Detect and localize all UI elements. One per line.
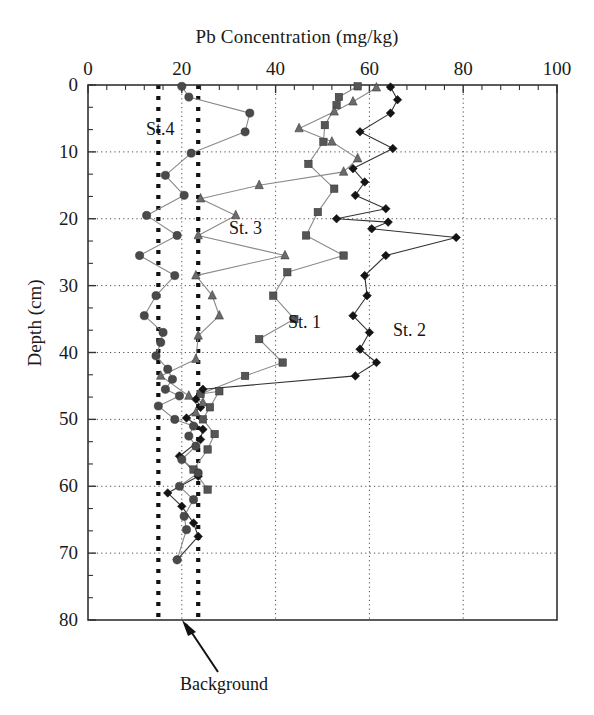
data-point-circle [164,365,172,373]
data-point-square [211,430,218,437]
data-point-square [314,208,321,215]
y-tick-label: 80 [59,609,78,630]
data-point-triangle [194,331,202,340]
data-point-circle [180,191,188,199]
data-point-triangle [339,167,347,176]
data-point-diamond [356,128,365,137]
data-point-triangle [192,354,200,363]
data-point-diamond [351,191,360,200]
data-point-diamond [384,218,393,227]
data-point-square [340,252,347,259]
chart-figure: Pb Concentration (mg/kg) Depth (cm) 0204… [0,0,594,715]
data-point-circle [185,432,193,440]
data-point-circle [168,375,176,383]
data-point-circle [152,352,160,360]
data-point-diamond [351,372,360,381]
background-label: Background [180,674,268,694]
data-point-diamond [389,144,398,153]
data-point-square [354,83,361,90]
x-tick-label: 100 [543,58,572,79]
x-tick-label: 0 [83,58,93,79]
background-annotation: Background [180,620,268,694]
data-point-circle [189,496,197,504]
data-point-square [321,121,328,128]
series-label-st2: St. 2 [393,320,426,340]
data-point-circle [194,469,202,477]
data-point-diamond [386,83,395,92]
data-point-circle [178,82,186,90]
y-tick-label: 70 [59,542,78,563]
data-point-triangle [372,82,380,91]
y-tick-label: 30 [59,275,78,296]
y-tick-label: 10 [59,141,78,162]
data-point-triangle [349,97,357,106]
data-point-circle [192,442,200,450]
data-point-diamond [386,109,395,118]
data-point-diamond [367,224,376,233]
data-point-square [204,446,211,453]
series-line-st3 [161,88,377,413]
data-point-diamond [182,414,191,423]
data-point-square [320,138,327,145]
x-tick-label: 40 [266,58,285,79]
data-point-triangle [215,311,223,320]
data-point-circle [143,211,151,219]
data-point-circle [246,109,254,117]
data-point-circle [171,415,179,423]
data-point-square [335,93,342,100]
y-tick-label: 60 [59,475,78,496]
data-point-square [204,486,211,493]
plot-canvas: 020406080100 01020304050607080 Backgroun… [0,0,594,715]
x-tick-label: 80 [454,58,473,79]
data-point-circle [180,512,188,520]
data-point-square [270,292,277,299]
data-point-circle [161,171,169,179]
y-tick-labels: 01020304050607080 [59,74,78,630]
data-point-triangle [185,391,193,400]
data-point-circle [241,128,249,136]
background-arrow-head [182,620,196,636]
data-point-circle [135,251,143,259]
data-point-circle [185,93,193,101]
y-tick-label: 20 [59,208,78,229]
y-tick-label: 40 [59,342,78,363]
data-point-circle [173,556,181,564]
data-point-circle [140,312,148,320]
data-point-circle [173,231,181,239]
data-point-circle [189,422,197,430]
data-point-circle [154,402,162,410]
series-label-st4: St.4 [146,119,175,139]
data-point-diamond [393,95,402,104]
data-point-square [305,160,312,167]
data-point-triangle [194,230,202,239]
series-line-st4 [140,86,250,560]
data-point-circle [157,338,165,346]
data-point-square [255,335,262,342]
x-tick-labels: 020406080100 [83,58,571,79]
data-point-square [279,359,286,366]
data-point-circle [159,328,167,336]
data-point-circle [178,455,186,463]
data-point-circle [171,271,179,279]
series-label-st1: St. 1 [288,312,321,332]
data-point-diamond [363,291,372,300]
data-point-circle [161,385,169,393]
data-point-square [302,232,309,239]
y-tick-label: 50 [59,408,78,429]
data-point-circle [175,392,183,400]
data-point-square [216,388,223,395]
x-tick-label: 20 [172,58,191,79]
data-point-circle [187,149,195,157]
data-point-circle [152,292,160,300]
y-tick-label: 0 [69,74,79,95]
data-point-circle [182,526,190,534]
data-point-diamond [382,204,391,213]
data-point-diamond [332,214,341,223]
data-point-square [331,185,338,192]
data-point-square [199,416,206,423]
x-tick-label: 60 [360,58,379,79]
data-point-square [206,404,213,411]
background-band-lines [158,85,198,620]
data-point-square [241,372,248,379]
data-point-triangle [353,153,361,162]
